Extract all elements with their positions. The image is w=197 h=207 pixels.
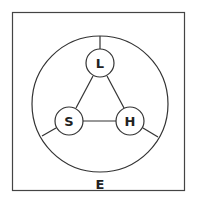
- node-H: H: [116, 107, 144, 135]
- edge-L-S: [76, 76, 93, 108]
- node-H-label: H: [125, 114, 136, 129]
- diagram-canvas: L S H E: [0, 0, 197, 207]
- frame-label: E: [96, 177, 105, 192]
- node-L-label: L: [96, 56, 104, 71]
- node-L: L: [86, 49, 114, 77]
- node-S: S: [55, 107, 83, 135]
- node-S-label: S: [64, 114, 73, 129]
- edge-L-H: [107, 76, 124, 108]
- spoke-H: [143, 128, 158, 137]
- environment-frame: [13, 13, 185, 191]
- spoke-S: [42, 128, 56, 136]
